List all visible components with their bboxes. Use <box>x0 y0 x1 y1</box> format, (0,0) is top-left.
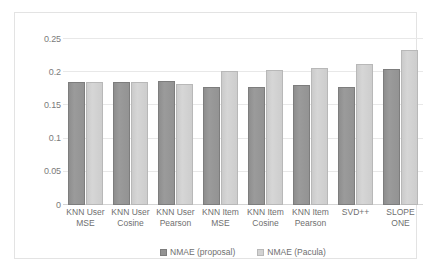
bar-group <box>378 39 423 205</box>
x-tick-label: KNN User Cosine <box>108 207 153 229</box>
bar[interactable] <box>311 68 328 205</box>
bars-layer <box>63 39 423 205</box>
x-tick-label: KNN Item MSE <box>198 207 243 229</box>
x-tick-label: KNN Item Cosine <box>243 207 288 229</box>
bar[interactable] <box>68 82 85 205</box>
bar-group <box>333 39 378 205</box>
legend-label: NMAE (Pacula) <box>267 248 326 257</box>
bar[interactable] <box>221 71 238 205</box>
y-tick-label: 0.05 <box>44 167 61 176</box>
y-tick-label: 0.2 <box>49 68 61 77</box>
bar[interactable] <box>248 87 265 205</box>
legend-swatch-icon <box>160 249 167 256</box>
x-tick-label: SVD++ <box>333 207 378 218</box>
legend-swatch-icon <box>257 249 264 256</box>
y-axis-labels: 00.050.10.150.20.25 <box>29 39 61 205</box>
bar-group <box>243 39 288 205</box>
chart-root: 00.050.10.150.20.25 KNN User MSEKNN User… <box>0 0 432 275</box>
bar[interactable] <box>356 64 373 205</box>
bar[interactable] <box>293 85 310 205</box>
legend-label: NMAE (proposal) <box>170 248 235 257</box>
bar[interactable] <box>158 81 175 205</box>
y-tick-label: 0.1 <box>49 134 61 143</box>
bar[interactable] <box>131 82 148 205</box>
bar[interactable] <box>401 50 418 205</box>
x-tick-label: SLOPE ONE <box>378 207 423 229</box>
bar[interactable] <box>113 82 130 205</box>
x-tick-label: KNN User MSE <box>63 207 108 229</box>
chart-legend: NMAE (proposal)NMAE (Pacula) <box>63 245 423 259</box>
y-tick-label: 0 <box>56 201 61 210</box>
x-tick-label: KNN Item Pearson <box>288 207 333 229</box>
y-tick-label: 0.15 <box>44 101 61 110</box>
bar[interactable] <box>383 69 400 205</box>
bar[interactable] <box>338 87 355 205</box>
x-axis-labels: KNN User MSEKNN User CosineKNN User Pear… <box>63 207 423 243</box>
x-tick-label: KNN User Pearson <box>153 207 198 229</box>
y-tick-label: 0.25 <box>44 35 61 44</box>
bar-group <box>288 39 333 205</box>
bar[interactable] <box>176 84 193 206</box>
legend-item[interactable]: NMAE (Pacula) <box>257 248 326 257</box>
bar-group <box>108 39 153 205</box>
bar[interactable] <box>203 87 220 205</box>
bar[interactable] <box>266 70 283 205</box>
bar-group <box>153 39 198 205</box>
legend-item[interactable]: NMAE (proposal) <box>160 248 235 257</box>
chart-frame: 00.050.10.150.20.25 KNN User MSEKNN User… <box>14 12 417 259</box>
bar-group <box>63 39 108 205</box>
plot-area <box>63 39 423 205</box>
bar[interactable] <box>86 82 103 205</box>
bar-group <box>198 39 243 205</box>
